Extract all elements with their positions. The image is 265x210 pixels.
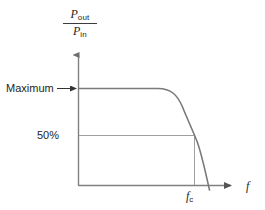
low-pass-response-chart [0,0,265,210]
y-axis-numerator-symbol: P [70,7,77,21]
y-axis-label: Pout Pin [57,8,103,39]
half-power-level-label: 50% [37,130,59,141]
y-axis-denominator-subscript: in [80,30,87,39]
cutoff-frequency-label: fc [186,190,194,204]
maximum-level-label: Maximum [6,83,54,94]
y-axis-label-denominator: Pin [57,24,103,39]
figure-root: Pout Pin Maximum 50% fc f [0,0,265,210]
response-curve [79,89,210,191]
y-axis-numerator-subscript: out [78,13,90,22]
x-axis-symbol: f [246,179,249,193]
x-axis-label: f [246,180,249,192]
y-axis-label-numerator: Pout [57,8,103,23]
cutoff-frequency-subscript: c [189,195,193,204]
